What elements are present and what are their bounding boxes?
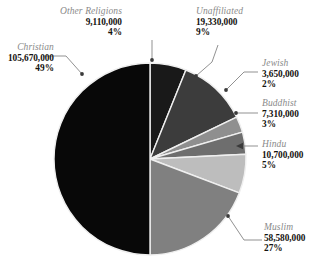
callout-jewish[interactable]: Jewish 3,650,000 2% (262, 58, 299, 89)
callout-other-religions-percent: 4% (60, 27, 122, 37)
callout-buddhist-value: 7,310,000 (262, 109, 299, 119)
leader-line-jewish (226, 72, 258, 90)
callout-hindu-percent: 5% (262, 160, 303, 170)
callout-hindu-value: 10,700,000 (262, 150, 303, 160)
callout-christian-category: Christian (8, 42, 54, 53)
callout-muslim[interactable]: Muslim 58,580,000 27% (264, 222, 305, 253)
callout-hindu-category: Hindu (262, 139, 303, 150)
callout-unaffiliated-percent: 9% (196, 27, 243, 37)
pie-slices (54, 63, 246, 255)
callout-jewish-value: 3,650,000 (262, 69, 299, 79)
leader-line-unaffiliated (196, 45, 218, 76)
leader-dot-unaffiliated (194, 74, 198, 78)
leader-line-muslim (228, 216, 262, 240)
callout-jewish-category: Jewish (262, 58, 299, 69)
leader-dot-buddhist (234, 111, 238, 115)
callout-muslim-value: 58,580,000 (264, 233, 305, 243)
leader-dot-christian (80, 72, 84, 76)
leader-dot-other-religions (150, 58, 154, 62)
callout-buddhist-percent: 3% (262, 119, 299, 129)
callout-buddhist-category: Buddhist (262, 98, 299, 109)
callout-unaffiliated-category: Unaffiliated (196, 6, 243, 17)
callout-christian-value: 105,670,000 (8, 53, 54, 63)
callout-christian-percent: 49% (8, 63, 54, 73)
callout-unaffiliated-value: 19,330,000 (196, 17, 243, 27)
callout-other-religions-category: Other Religions (60, 6, 122, 17)
callout-jewish-percent: 2% (262, 79, 299, 89)
pie-chart-figure: Christian 105,670,000 49% Other Religion… (0, 0, 322, 273)
callout-christian[interactable]: Christian 105,670,000 49% (8, 42, 54, 73)
callout-unaffiliated[interactable]: Unaffiliated 19,330,000 9% (196, 6, 243, 37)
leader-dot-jewish (224, 88, 228, 92)
callout-muslim-category: Muslim (264, 222, 305, 233)
callout-other-religions-value: 9,110,000 (60, 17, 122, 27)
callout-muslim-percent: 27% (264, 243, 305, 253)
callout-hindu[interactable]: Hindu 10,700,000 5% (262, 139, 303, 170)
leader-dot-muslim (226, 214, 230, 218)
callout-buddhist[interactable]: Buddhist 7,310,000 3% (262, 98, 299, 129)
callout-other-religions[interactable]: Other Religions 9,110,000 4% (60, 6, 122, 37)
slice-christian[interactable] (54, 63, 150, 255)
